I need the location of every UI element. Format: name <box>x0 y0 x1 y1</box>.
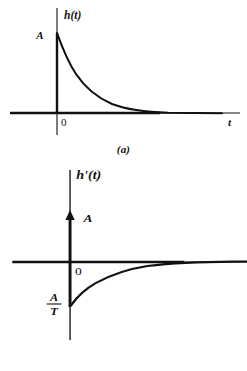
chart-a-amplitude-label: A <box>35 29 43 41</box>
chart-b-impulse-arrow-head <box>65 210 74 220</box>
figure-sheet: h(t) A 0 t (a) <box>0 0 247 371</box>
chart-a-caption: (a) <box>0 143 247 155</box>
chart-b-impulse-label: A <box>82 212 92 224</box>
chart-b-origin-label: 0 <box>75 265 82 277</box>
chart-a-svg: h(t) A 0 t <box>0 0 247 185</box>
chart-b-fraction-numerator: A <box>49 292 58 303</box>
chart-b-y-axis-label: h'(t) <box>76 170 101 182</box>
chart-a-origin-label: 0 <box>61 116 67 128</box>
chart-b-svg: h'(t) A 0 t A T <box>12 170 247 340</box>
chart-b-min-value-fraction: A T <box>47 292 62 317</box>
chart-b-curve-h-prime-of-t <box>71 262 247 306</box>
chart-a-x-axis-label: t <box>228 116 232 128</box>
chart-panel-b: h'(t) A 0 t A T (b) <box>0 170 247 371</box>
chart-b-fraction-denominator: T <box>50 306 59 317</box>
chart-b-svg-wrapper: h'(t) A 0 t A T <box>0 170 247 371</box>
chart-a-curve-h-of-t <box>57 33 222 113</box>
chart-a-y-axis-label: h(t) <box>64 9 81 22</box>
chart-panel-a: h(t) A 0 t (a) <box>0 0 247 185</box>
